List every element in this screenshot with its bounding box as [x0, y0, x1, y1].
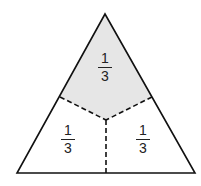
triangle-diagram	[0, 0, 201, 186]
fraction-bottom-left: 1 3	[58, 123, 78, 156]
fraction-bottom-right: 1 3	[133, 123, 153, 156]
numerator: 1	[139, 122, 147, 138]
numerator: 1	[64, 122, 72, 138]
numerator: 1	[101, 50, 109, 66]
denominator: 3	[139, 140, 147, 156]
denominator: 3	[101, 68, 109, 84]
denominator: 3	[64, 140, 72, 156]
fraction-top: 1 3	[95, 51, 115, 84]
